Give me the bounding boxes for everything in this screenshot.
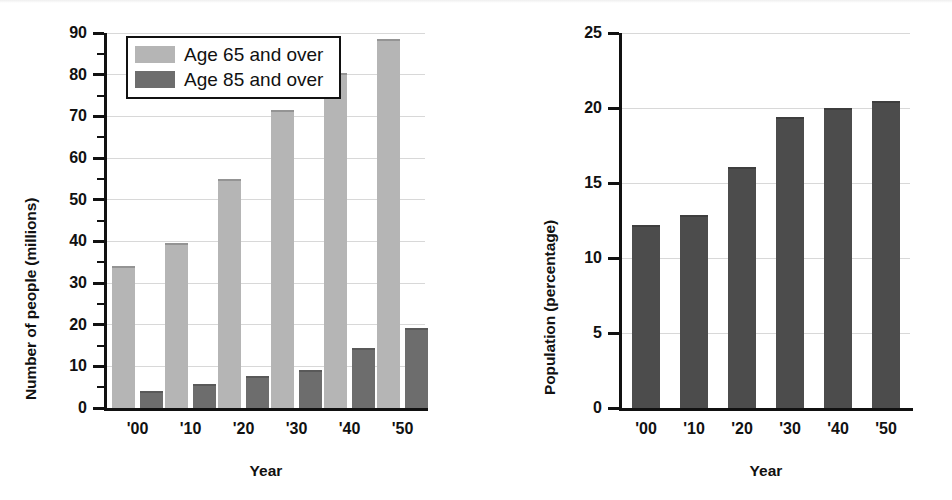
y-axis-tick: [93, 323, 104, 326]
x-axis-tick-label: '30: [286, 420, 308, 438]
x-axis-tick-label: '00: [635, 420, 657, 438]
left-y-axis-title: Number of people (millions): [22, 198, 40, 400]
y-axis-tick-label: 0: [47, 399, 87, 417]
y-axis-tick-label: 20: [47, 316, 87, 334]
right-plot-area: [622, 33, 910, 408]
y-axis-tick: [93, 365, 104, 368]
y-axis-tick: [93, 240, 104, 243]
y-axis-tick-label: 80: [47, 66, 87, 84]
bar: [112, 266, 135, 408]
y-axis-minor-tick: [97, 53, 104, 55]
y-axis-tick: [93, 157, 104, 160]
y-axis-tick-label: 50: [47, 191, 87, 209]
right-y-axis-title: Population (percentage): [541, 220, 559, 395]
y-axis-minor-tick: [97, 345, 104, 347]
y-axis-tick: [608, 332, 619, 335]
chart-legend: Age 65 and over Age 85 and over: [126, 36, 341, 99]
left-chart-panel: Number of people (millions) Year Age 65 …: [0, 0, 476, 500]
bar: [680, 215, 708, 409]
y-axis-minor-tick: [97, 261, 104, 263]
gridline: [622, 183, 910, 184]
y-axis-tick: [93, 115, 104, 118]
legend-label: Age 65 and over: [184, 45, 323, 64]
x-axis-tick-label: '20: [731, 420, 753, 438]
gridline: [622, 108, 910, 109]
gridline: [107, 33, 425, 34]
y-axis-tick-label: 0: [562, 399, 602, 417]
y-axis-tick-label: 30: [47, 274, 87, 292]
y-axis-tick-label: 10: [47, 357, 87, 375]
y-axis-tick: [608, 407, 619, 410]
bar: [824, 108, 852, 408]
y-axis-minor-tick: [97, 386, 104, 388]
legend-swatch-icon: [135, 71, 175, 88]
y-axis-tick: [93, 32, 104, 35]
x-axis-tick-label: '10: [683, 420, 705, 438]
y-axis-tick: [608, 182, 619, 185]
bar: [140, 391, 163, 409]
y-axis-tick-label: 25: [562, 24, 602, 42]
x-axis-tick-label: '40: [827, 420, 849, 438]
right-plot-background: [622, 33, 910, 408]
x-axis-tick-label: '50: [392, 420, 414, 438]
bar: [405, 328, 428, 408]
legend-label: Age 85 and over: [184, 70, 323, 89]
gridline: [622, 258, 910, 259]
x-axis-tick-label: '50: [875, 420, 897, 438]
bar: [299, 370, 322, 408]
x-axis-tick-label: '30: [779, 420, 801, 438]
y-axis-tick-label: 15: [562, 174, 602, 192]
legend-swatch-icon: [135, 46, 175, 63]
y-axis-tick: [93, 73, 104, 76]
legend-item: Age 85 and over: [135, 67, 330, 92]
bar: [271, 110, 294, 408]
bar: [377, 39, 400, 408]
bar: [872, 101, 900, 409]
y-axis-minor-tick: [97, 220, 104, 222]
y-axis-tick-label: 5: [562, 324, 602, 342]
y-axis-tick-label: 90: [47, 24, 87, 42]
x-axis-tick-label: '00: [127, 420, 149, 438]
y-axis-tick: [93, 407, 104, 410]
y-axis-tick: [608, 107, 619, 110]
bar: [193, 384, 216, 408]
bar: [728, 167, 756, 409]
bar: [632, 225, 660, 408]
bar: [165, 243, 188, 408]
legend-item: Age 65 and over: [135, 42, 330, 67]
y-axis-tick-label: 10: [562, 249, 602, 267]
left-x-axis-line: [104, 408, 428, 411]
x-axis-tick-label: '10: [180, 420, 202, 438]
y-axis-tick: [93, 198, 104, 201]
gridline: [622, 333, 910, 334]
left-y-axis-line: [104, 33, 107, 408]
left-x-axis-title: Year: [250, 462, 283, 480]
right-y-axis-line: [619, 33, 622, 408]
figure-root: Number of people (millions) Year Age 65 …: [0, 0, 952, 500]
bar: [218, 179, 241, 408]
y-axis-minor-tick: [97, 136, 104, 138]
gridline: [622, 33, 910, 34]
y-axis-minor-tick: [97, 178, 104, 180]
y-axis-minor-tick: [97, 95, 104, 97]
bar: [246, 376, 269, 408]
y-axis-tick: [93, 282, 104, 285]
y-axis-tick-label: 20: [562, 99, 602, 117]
bar: [776, 117, 804, 408]
y-axis-tick-label: 40: [47, 232, 87, 250]
x-axis-tick-label: '40: [339, 420, 361, 438]
bar: [324, 73, 347, 408]
y-axis-tick: [608, 257, 619, 260]
y-axis-minor-tick: [97, 303, 104, 305]
bar: [352, 348, 375, 408]
x-axis-tick-label: '20: [233, 420, 255, 438]
y-axis-tick: [608, 32, 619, 35]
right-x-axis-title: Year: [750, 462, 783, 480]
y-axis-tick-label: 70: [47, 107, 87, 125]
y-axis-tick-label: 60: [47, 149, 87, 167]
right-x-axis-line: [619, 408, 913, 411]
right-chart-panel: Population (percentage) Year 0510152025'…: [476, 0, 952, 500]
